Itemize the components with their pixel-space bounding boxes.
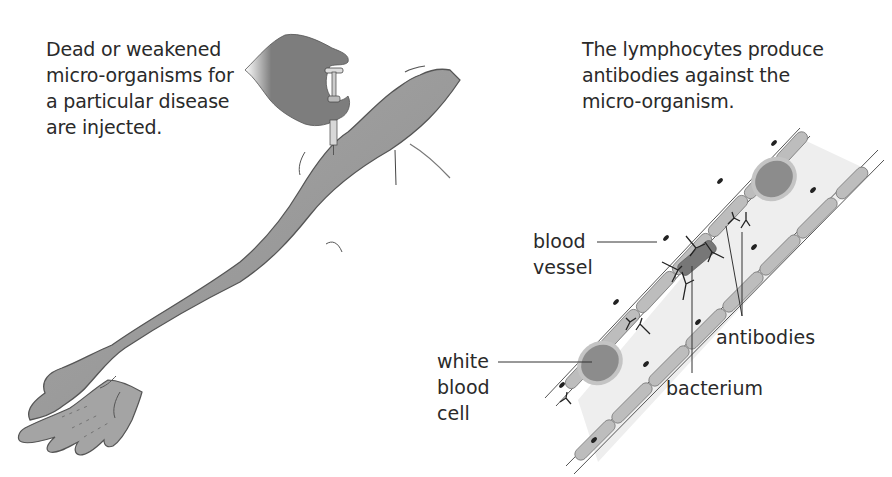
label-line: vessel [533, 254, 593, 280]
label-line: white [437, 348, 490, 374]
caption-line: Dead or weakened [46, 36, 234, 62]
label-bacterium: bacterium [666, 375, 763, 401]
elbow-crease [326, 242, 342, 252]
caption-line: micro-organisms for [46, 62, 234, 88]
syringe-barrel [330, 120, 337, 145]
caption-line: a particular disease [46, 88, 234, 114]
injection-site [395, 150, 396, 185]
injecting-hand [245, 34, 350, 155]
caption-injection: Dead or weakened micro-organisms for a p… [46, 36, 234, 140]
vessel-wall-lower [572, 165, 870, 463]
caption-lymphocytes: The lymphocytes produce antibodies again… [582, 36, 824, 114]
armpit-line [410, 144, 450, 178]
label-antibodies: antibodies [716, 324, 815, 350]
syringe-plunger [332, 72, 336, 98]
label-line: blood [437, 374, 490, 400]
label-line: antibodies [716, 324, 815, 350]
label-line: bacterium [666, 375, 763, 401]
label-blood-vessel: blood vessel [533, 228, 593, 280]
caption-line: micro-organism. [582, 88, 824, 114]
label-white-blood-cell: white blood cell [437, 348, 490, 426]
caption-line: are injected. [46, 114, 234, 140]
blood-vessel-illustration [545, 128, 884, 474]
caption-line: antibodies against the [582, 62, 824, 88]
caption-line: The lymphocytes produce [582, 36, 824, 62]
label-line: cell [437, 400, 490, 426]
label-line: blood [533, 228, 593, 254]
